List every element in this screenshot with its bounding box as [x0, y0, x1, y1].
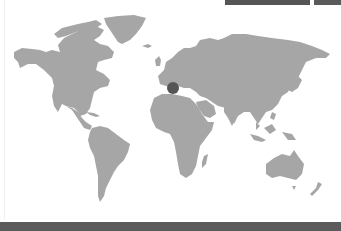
top-bar-segment-right	[314, 0, 341, 5]
greenland	[104, 15, 146, 44]
indonesia	[250, 122, 296, 142]
new-zealand	[310, 182, 322, 196]
south-america	[88, 126, 130, 202]
location-marker	[167, 82, 179, 94]
footer-bar	[0, 222, 341, 231]
madagascar	[202, 154, 208, 168]
north-america	[14, 27, 114, 116]
caribbean	[86, 112, 100, 117]
australia	[266, 150, 304, 180]
iceland	[142, 44, 152, 48]
continents	[14, 15, 330, 202]
world-map	[0, 10, 341, 220]
philippines	[270, 112, 276, 120]
tasmania	[292, 186, 296, 190]
british-isles	[155, 56, 161, 66]
top-bar-segment	[225, 0, 310, 5]
